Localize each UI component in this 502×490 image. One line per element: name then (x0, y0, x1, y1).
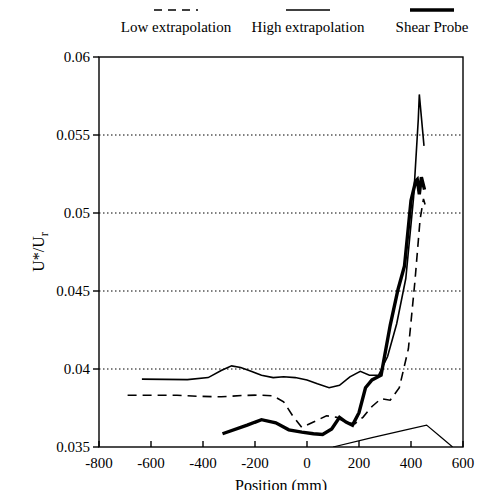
plot-area-wrapper: 0.0350.040.0450.050.0550.06-800-600-400-… (0, 46, 502, 486)
xtick-label-5: 200 (348, 455, 371, 471)
xtick-label-6: 400 (400, 455, 423, 471)
legend-item-2: Shear Probe (352, 4, 502, 35)
xtick-label-0: -800 (85, 455, 113, 471)
series-line-high-extrapolation (142, 94, 424, 387)
xtick-label-7: 600 (452, 455, 475, 471)
ytick-label-4: 0.055 (56, 127, 90, 143)
chart-legend: Low extrapolationHigh extrapolationShear… (0, 0, 502, 46)
xtick-label-2: -400 (189, 455, 217, 471)
x-axis-title: Position (mm) (235, 477, 327, 490)
ytick-label-3: 0.05 (64, 205, 90, 221)
series-line-baseline-thin (333, 425, 453, 447)
ytick-label-0: 0.035 (56, 439, 90, 455)
legend-key-solid-icon (352, 4, 502, 18)
xtick-label-4: 0 (303, 455, 311, 471)
xtick-label-1: -600 (137, 455, 165, 471)
y-axis-title-subscript: r (37, 232, 51, 236)
ytick-label-5: 0.06 (64, 49, 91, 65)
line-chart-svg: 0.0350.040.0450.050.0550.06-800-600-400-… (0, 46, 502, 486)
legend-label-2: Shear Probe (352, 19, 502, 35)
ytick-label-2: 0.045 (56, 283, 90, 299)
xtick-label-3: -200 (241, 455, 269, 471)
y-axis-title-text: U*/Ur (30, 232, 51, 272)
y-axis-title: U*/Ur (30, 232, 51, 272)
series-line-low-extrapolation (128, 199, 426, 428)
ytick-label-1: 0.04 (64, 361, 91, 377)
